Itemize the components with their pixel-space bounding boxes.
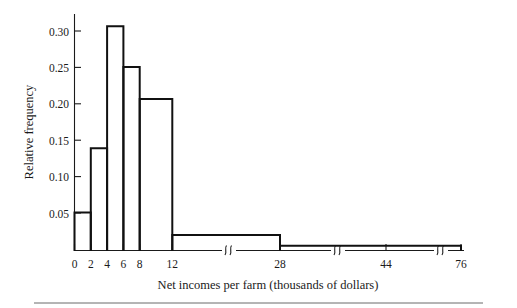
chart-background [0,0,517,308]
x-tick-label-28: 28 [274,258,286,270]
x-tick-label-8: 8 [137,258,143,270]
axis-break-icon-3 [434,246,448,256]
x-tick-label-2: 2 [88,258,94,270]
y-tick-label-0.20: 0.20 [49,98,69,110]
x-tick-label-76: 76 [455,258,467,270]
x-tick-label-4: 4 [104,258,110,270]
histogram-svg: 0.30 0.25 0.20 0.15 0.10 0.05 Relative f… [0,0,517,308]
axis-break-icon-2 [331,246,345,256]
x-tick-label-6: 6 [121,258,127,270]
histogram-figure: 0.30 0.25 0.20 0.15 0.10 0.05 Relative f… [0,0,517,308]
y-axis-title: Relative frequency [22,84,36,179]
x-tick-label-12: 12 [167,258,179,270]
y-tick-label-0.30: 0.30 [49,26,69,38]
y-tick-label-0.25: 0.25 [49,62,69,74]
y-tick-label-0.10: 0.10 [49,171,69,183]
y-tick-label-0.15: 0.15 [49,135,69,147]
x-axis-title: Net incomes per farm (thousands of dolla… [158,278,379,292]
x-tick-label-0: 0 [72,258,78,270]
axis-break-icon-1 [222,246,236,256]
y-tick-label-0.05: 0.05 [49,208,69,220]
x-tick-label-44: 44 [380,258,392,270]
